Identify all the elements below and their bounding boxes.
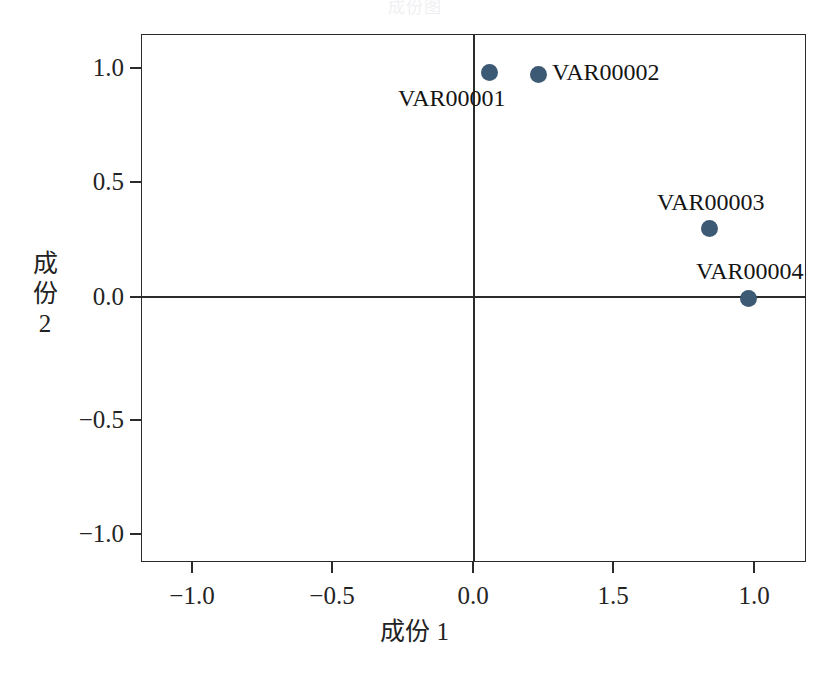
data-point-label: VAR00004 [696,259,804,283]
chart-title: 成份图 [0,0,829,18]
data-point-label: VAR00003 [657,190,765,214]
y-axis-title-char-1: 成 [28,249,62,279]
y-axis-title-char-2: 份 [28,279,62,309]
y-axis-tick [130,67,141,69]
y-axis-tick-label: 1.0 [36,55,124,80]
component-plot-figure: 成份图 1.00.50.0−0.5−1.0−1.0−0.50.01.51.0 V… [0,0,829,681]
x-axis-tick [612,562,614,573]
vertical-zero-axis [473,34,475,562]
data-point-marker[interactable] [481,64,498,81]
horizontal-zero-axis [141,296,806,298]
x-axis-tick [753,562,755,573]
data-point-marker[interactable] [530,66,547,83]
x-axis-tick-label: 0.0 [418,583,528,608]
x-axis-tick-label: −0.5 [277,583,387,608]
y-axis-tick [130,181,141,183]
y-axis-tick-label: −1.0 [36,521,124,546]
y-axis-title: 成 份 2 [28,249,62,339]
x-axis-title: 成份 1 [0,618,829,645]
y-axis-tick [130,419,141,421]
y-axis-tick-label: 0.5 [36,169,124,194]
y-axis-tick [130,533,141,535]
data-point-label: VAR00002 [552,60,660,84]
y-axis-title-char-3: 2 [28,309,62,339]
x-axis-tick [331,562,333,573]
data-point-label: VAR00001 [398,86,506,110]
x-axis-tick [191,562,193,573]
y-axis-tick-label: −0.5 [36,407,124,432]
data-point-marker[interactable] [740,290,757,307]
x-axis-tick-label: 1.0 [699,583,809,608]
x-axis-tick-label: 1.5 [558,583,668,608]
x-axis-tick-label: −1.0 [137,583,247,608]
data-point-marker[interactable] [701,220,718,237]
x-axis-tick [472,562,474,573]
y-axis-tick [130,296,141,298]
